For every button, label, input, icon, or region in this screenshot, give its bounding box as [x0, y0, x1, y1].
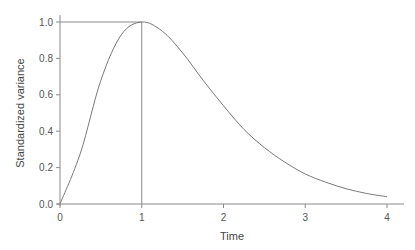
y-tick-label: 0.4: [39, 126, 53, 137]
y-tick-label: 0.2: [39, 162, 53, 173]
variance-chart: 0.00.20.40.60.81.001234 Time Standardize…: [0, 0, 415, 250]
axes: 0.00.20.40.60.81.001234: [39, 15, 404, 223]
y-tick-label: 1.0: [39, 17, 53, 28]
x-tick-label: 0: [57, 212, 63, 223]
x-tick-label: 4: [384, 212, 390, 223]
y-tick-label: 0.6: [39, 89, 53, 100]
y-tick-label: 0.0: [39, 199, 53, 210]
x-tick-label: 3: [302, 212, 308, 223]
y-tick-label: 0.8: [39, 53, 53, 64]
peak-guide-lines: [60, 22, 142, 204]
x-tick-label: 1: [139, 212, 145, 223]
variance-curve: [60, 22, 387, 204]
y-axis-label: Standardized variance: [14, 58, 26, 167]
x-axis-label: Time: [220, 230, 244, 242]
x-tick-label: 2: [221, 212, 227, 223]
